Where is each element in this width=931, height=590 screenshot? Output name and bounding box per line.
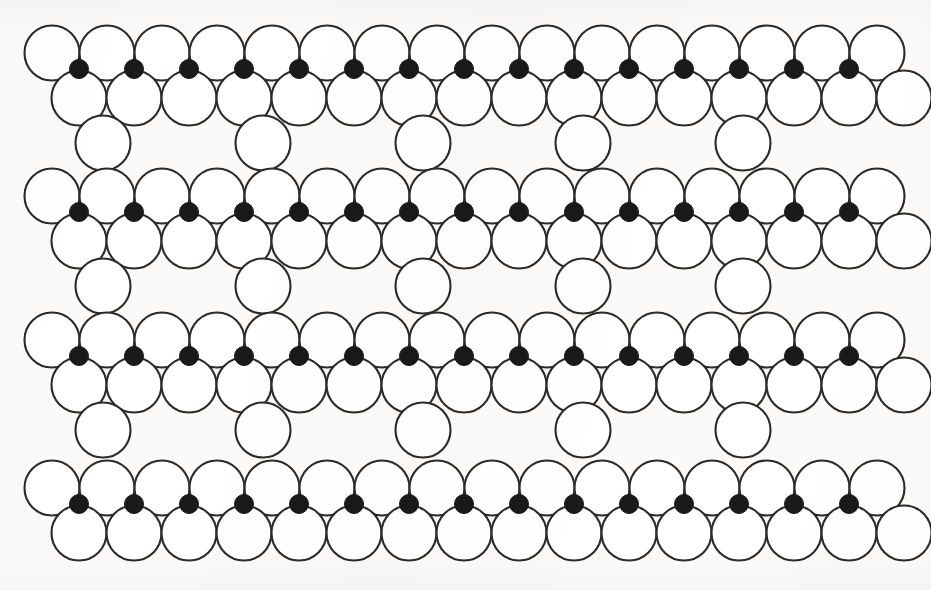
interstitial-sphere	[565, 347, 584, 366]
interstitial-sphere	[70, 495, 89, 514]
interstitial-row	[70, 60, 859, 79]
interstitial-sphere	[840, 60, 859, 79]
interstitial-sphere	[565, 60, 584, 79]
large-sphere	[877, 358, 931, 413]
interstitial-sphere	[455, 495, 474, 514]
interstitial-sphere	[675, 60, 694, 79]
interstitial-sphere	[125, 347, 144, 366]
interstitial-sphere	[675, 203, 694, 222]
interstitial-sphere	[70, 347, 89, 366]
interstitial-sphere	[510, 495, 529, 514]
interstitial-sphere	[510, 203, 529, 222]
interstitial-sphere	[785, 347, 804, 366]
interstitial-sphere	[620, 495, 639, 514]
figure-canvas	[0, 0, 931, 590]
interstitial-sphere	[675, 495, 694, 514]
large-sphere	[877, 506, 931, 561]
interstitial-sphere	[455, 203, 474, 222]
interstitial-row	[70, 495, 859, 514]
large-sphere	[236, 403, 291, 458]
interstitial-sphere	[565, 203, 584, 222]
interstitial-sphere	[345, 203, 364, 222]
interstitial-sphere	[620, 60, 639, 79]
interstitial-sphere	[510, 347, 529, 366]
interstitial-sphere	[675, 347, 694, 366]
large-sphere	[76, 116, 131, 171]
large-sphere	[396, 403, 451, 458]
large-sphere	[556, 259, 611, 314]
interstitial-sphere	[455, 347, 474, 366]
large-sphere	[877, 214, 931, 269]
interstitial-sphere	[345, 347, 364, 366]
interstitial-sphere	[455, 60, 474, 79]
interstitial-sphere	[180, 60, 199, 79]
interstitial-sphere	[235, 203, 254, 222]
interstitial-sphere	[290, 203, 309, 222]
large-sphere	[716, 116, 771, 171]
interstitial-sphere	[785, 60, 804, 79]
interstitial-sphere	[290, 495, 309, 514]
interstitial-sphere	[840, 495, 859, 514]
large-sphere	[716, 259, 771, 314]
interstitial-sphere	[730, 60, 749, 79]
interstitial-sphere	[345, 495, 364, 514]
interstitial-sphere	[125, 495, 144, 514]
interstitial-sphere	[840, 347, 859, 366]
interstitial-sphere	[345, 60, 364, 79]
sphere-packing-diagram	[0, 0, 931, 590]
interstitial-sphere	[730, 203, 749, 222]
interstitial-sphere	[235, 347, 254, 366]
large-sphere	[556, 116, 611, 171]
interstitial-sphere	[235, 60, 254, 79]
interstitial-sphere	[785, 495, 804, 514]
interstitial-sphere	[180, 495, 199, 514]
large-sphere	[556, 403, 611, 458]
interstitial-row	[70, 203, 859, 222]
interstitial-sphere	[70, 203, 89, 222]
interstitial-row	[70, 347, 859, 366]
interstitial-sphere	[125, 60, 144, 79]
interstitial-sphere	[290, 347, 309, 366]
large-sphere	[716, 403, 771, 458]
large-sphere	[236, 259, 291, 314]
interstitial-sphere	[400, 347, 419, 366]
interstitial-sphere	[510, 60, 529, 79]
interstitial-sphere	[70, 60, 89, 79]
interstitial-sphere	[400, 203, 419, 222]
interstitial-sphere	[180, 203, 199, 222]
large-sphere	[396, 116, 451, 171]
interstitial-sphere	[290, 60, 309, 79]
large-sphere	[76, 259, 131, 314]
large-sphere	[396, 259, 451, 314]
interstitial-sphere	[235, 495, 254, 514]
large-sphere	[877, 71, 931, 126]
interstitial-sphere	[620, 203, 639, 222]
interstitial-sphere	[565, 495, 584, 514]
interstitial-sphere	[840, 203, 859, 222]
large-sphere	[76, 403, 131, 458]
interstitial-sphere	[400, 495, 419, 514]
interstitial-sphere	[785, 203, 804, 222]
interstitial-sphere	[125, 203, 144, 222]
interstitial-sphere	[730, 347, 749, 366]
interstitial-sphere	[180, 347, 199, 366]
interstitial-sphere	[400, 60, 419, 79]
interstitial-sphere	[730, 495, 749, 514]
large-sphere	[236, 116, 291, 171]
interstitial-sphere	[620, 347, 639, 366]
